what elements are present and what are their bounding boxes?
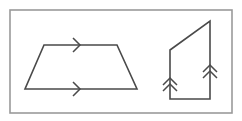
diagram-border [10, 10, 232, 113]
diagram-canvas: A rectangular frame contains two geometr… [0, 0, 242, 121]
geometry-diagram [0, 0, 242, 121]
